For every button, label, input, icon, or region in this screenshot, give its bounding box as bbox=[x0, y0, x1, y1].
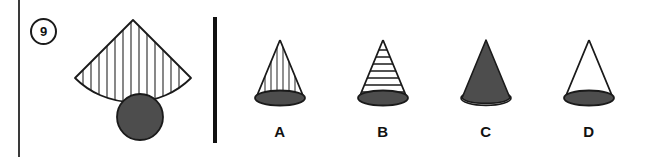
answer-option-d-label: D bbox=[539, 123, 639, 140]
cone-d-base-ellipse bbox=[564, 91, 614, 106]
cone-b-body bbox=[359, 40, 407, 98]
answer-option-a[interactable]: A bbox=[230, 34, 330, 154]
prompt-figure-cone-net bbox=[70, 12, 200, 145]
question-number-badge: 9 bbox=[30, 18, 57, 45]
answer-option-c[interactable]: C bbox=[436, 34, 536, 154]
question-page: 9 bbox=[0, 0, 652, 157]
cone-figure-d bbox=[557, 34, 621, 116]
section-divider bbox=[213, 17, 217, 143]
cone-b-horizontal-lines bbox=[351, 50, 415, 92]
cone-a-base-ellipse bbox=[255, 91, 305, 106]
answer-option-b-label: B bbox=[333, 123, 433, 140]
cone-d-body bbox=[565, 40, 613, 98]
cone-figure-c bbox=[454, 34, 518, 116]
cone-c-body bbox=[462, 40, 510, 103]
answer-option-b[interactable]: B bbox=[333, 34, 433, 154]
cone-b-base-ellipse bbox=[358, 91, 408, 106]
cone-a-body bbox=[256, 40, 304, 98]
answer-option-a-label: A bbox=[230, 123, 330, 140]
page-edge-rule bbox=[18, 0, 20, 157]
answer-options-row: A bbox=[230, 34, 642, 154]
answer-option-d[interactable]: D bbox=[539, 34, 639, 154]
answer-option-c-label: C bbox=[436, 123, 536, 140]
cone-figure-b bbox=[351, 34, 415, 116]
base-circle bbox=[117, 94, 163, 140]
cone-figure-a bbox=[248, 34, 312, 116]
